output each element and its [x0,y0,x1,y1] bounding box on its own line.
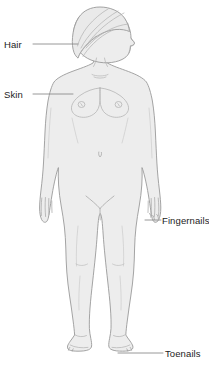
label-skin: Skin [4,89,23,100]
label-toenails: Toenails [165,348,201,359]
label-fingernails: Fingernails [162,215,209,226]
label-hair: Hair [4,39,22,50]
human-figure-illustration [0,0,209,368]
body-diagram: Hair Skin Fingernails Toenails [0,0,209,368]
body-silhouette-group [40,7,161,351]
